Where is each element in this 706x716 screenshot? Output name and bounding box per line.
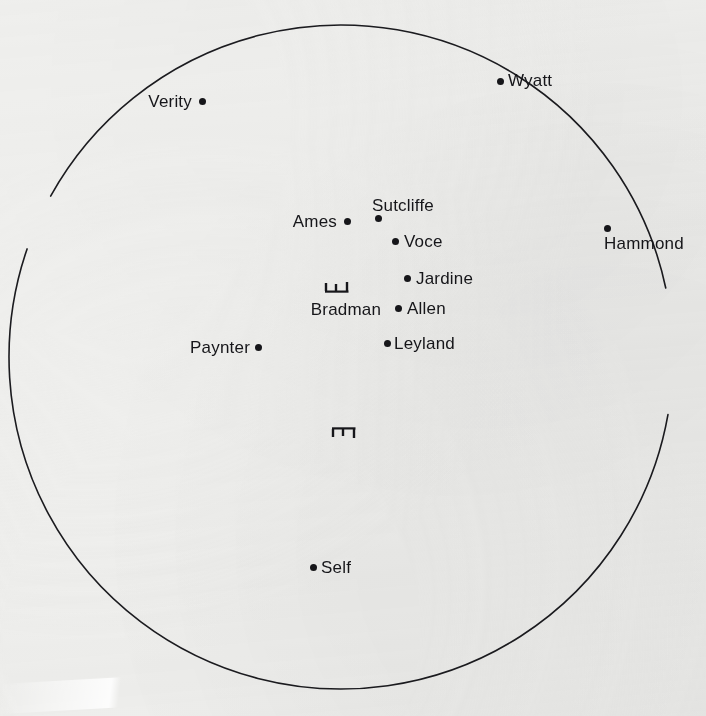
label-paynter: Paynter — [190, 339, 250, 356]
fielder-marker-jardine[interactable] — [404, 275, 411, 282]
label-bradman: Bradman — [311, 301, 381, 318]
label-sutcliffe: Sutcliffe — [372, 197, 434, 214]
fielder-marker-allen[interactable] — [395, 305, 402, 312]
label-leyland: Leyland — [394, 335, 455, 352]
label-jardine: Jardine — [416, 270, 473, 287]
fielder-marker-leyland[interactable] — [384, 340, 391, 347]
fielder-marker-wyatt[interactable] — [497, 78, 504, 85]
label-allen: Allen — [407, 300, 446, 317]
boundary-arc — [51, 25, 517, 196]
fielder-marker-self[interactable] — [310, 564, 317, 571]
boundary-arc — [517, 75, 666, 288]
fielder-marker-ames[interactable] — [344, 218, 351, 225]
label-ames: Ames — [293, 213, 337, 230]
label-wyatt: Wyatt — [508, 72, 552, 89]
label-hammond: Hammond — [604, 235, 684, 252]
fielder-marker-paynter[interactable] — [255, 344, 262, 351]
label-voce: Voce — [404, 233, 443, 250]
boundary-circle — [0, 0, 706, 716]
batting-wicket-icon — [324, 280, 350, 295]
fielder-marker-verity[interactable] — [199, 98, 206, 105]
field-diagram-page: VerityWyattHammondSutcliffeAmesVoceJardi… — [0, 0, 706, 716]
bowling-wicket-icon — [331, 425, 357, 440]
fielder-marker-hammond[interactable] — [604, 225, 611, 232]
label-self: Self — [321, 559, 351, 576]
label-verity: Verity — [148, 93, 192, 110]
fielder-marker-sutcliffe[interactable] — [375, 215, 382, 222]
fielder-marker-voce[interactable] — [392, 238, 399, 245]
